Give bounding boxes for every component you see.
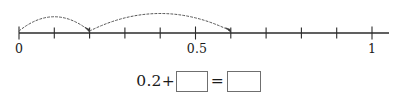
number-line-figure: 0 0.5 1 xyxy=(0,0,397,60)
axis-label-0-5: 0.5 xyxy=(187,43,207,56)
worksheet: 0 0.5 1 0.2 + = xyxy=(0,0,397,101)
sum-answer-box[interactable] xyxy=(227,71,261,92)
equation-row: 0.2 + = xyxy=(0,62,397,101)
axis-label-1: 1 xyxy=(368,43,376,56)
plus-sign: + xyxy=(162,74,175,90)
equation: 0.2 + = xyxy=(136,62,261,101)
jump-arc-1-arrowhead xyxy=(85,27,89,32)
equation-first-term: 0.2 xyxy=(136,74,162,90)
jump-arc-2-arrowhead xyxy=(226,28,231,32)
equals-sign: = xyxy=(211,74,224,90)
addend-answer-box[interactable] xyxy=(176,71,208,92)
axis-label-0: 0 xyxy=(15,43,23,56)
